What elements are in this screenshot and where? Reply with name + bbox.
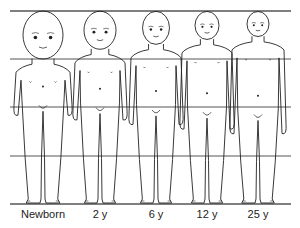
body-proportions-diagram bbox=[0, 0, 300, 228]
age-label-6y: 6 y bbox=[149, 208, 164, 220]
eye-icon bbox=[210, 26, 212, 28]
eye-icon bbox=[201, 26, 203, 28]
eye-icon bbox=[92, 31, 95, 34]
mouth bbox=[205, 32, 210, 33]
body-outline bbox=[230, 36, 286, 203]
navel bbox=[206, 92, 208, 94]
mouth bbox=[97, 40, 103, 41]
age-label-12y: 12 y bbox=[197, 208, 218, 220]
body-outline bbox=[73, 49, 127, 203]
navel bbox=[257, 95, 259, 97]
eye-icon bbox=[253, 24, 255, 26]
eye-icon bbox=[49, 36, 53, 40]
navel bbox=[42, 85, 44, 87]
age-label-2y: 2 y bbox=[93, 208, 108, 220]
navel bbox=[155, 90, 157, 92]
mouth bbox=[153, 36, 158, 37]
eye-icon bbox=[34, 36, 38, 40]
head-outline bbox=[84, 11, 116, 49]
mouth bbox=[39, 47, 47, 48]
age-label-newborn: Newborn bbox=[21, 208, 65, 220]
guide-lines bbox=[10, 11, 291, 204]
head-outline bbox=[247, 12, 269, 37]
head-outline bbox=[23, 11, 63, 59]
age-labels: Newborn 2 y 6 y 12 y 25 y bbox=[0, 205, 300, 225]
age-label-25y: 25 y bbox=[248, 208, 269, 220]
body-outline bbox=[14, 59, 72, 203]
eye-icon bbox=[105, 31, 108, 34]
body-outline bbox=[180, 39, 234, 203]
eye-icon bbox=[160, 28, 162, 30]
head-outline bbox=[195, 11, 219, 39]
eye-icon bbox=[261, 24, 263, 26]
navel bbox=[99, 88, 101, 90]
mouth bbox=[256, 30, 260, 31]
head-outline bbox=[143, 11, 170, 44]
body-outline bbox=[129, 44, 183, 203]
eye-icon bbox=[150, 28, 152, 30]
